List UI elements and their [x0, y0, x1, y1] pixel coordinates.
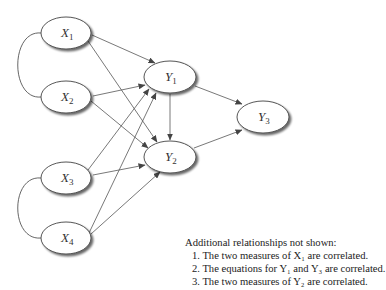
edge-x3-y1 — [88, 89, 149, 170]
node-y3: Y3 — [237, 101, 289, 133]
edge-y1-y3 — [195, 86, 242, 104]
correlation-x1-x2 — [18, 33, 41, 97]
notes-title: Additional relationships not shown: — [185, 236, 386, 249]
edge-x1-y1 — [92, 35, 155, 63]
note-item: 1. The two measures of X₁ are correlated… — [185, 249, 386, 262]
node-y1: Y1 — [144, 61, 196, 93]
edge-x4-y2 — [91, 172, 160, 234]
node-x3: X3 — [41, 162, 91, 194]
note-item: 2. The equations for Y₁ and Y₃ are corre… — [185, 262, 386, 275]
notes-block: Additional relationships not shown: 1. T… — [185, 236, 386, 288]
node-y2: Y2 — [144, 141, 196, 173]
edge-y2-y3 — [194, 130, 242, 148]
node-x2: X2 — [41, 81, 91, 113]
edge-x2-y2 — [91, 101, 148, 148]
node-x1: X1 — [41, 17, 91, 49]
correlation-x3-x4 — [18, 178, 41, 238]
note-item: 3. The two measures of Y₂ are correlated… — [185, 275, 386, 288]
node-x4: X4 — [41, 222, 91, 254]
